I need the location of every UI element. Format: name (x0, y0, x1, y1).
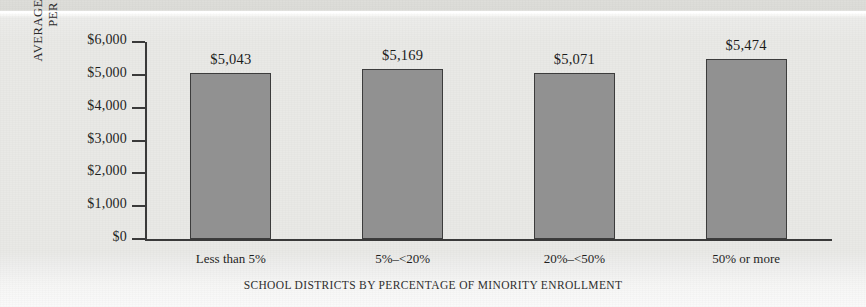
y-axis-tick-label: $5,000 (87, 65, 127, 81)
y-axis-tick-label: $4,000 (87, 98, 127, 114)
x-axis-category-label: 50% or more (666, 251, 826, 267)
top-edge-highlight-line (0, 11, 866, 13)
y-axis-tick-label: $2,000 (87, 163, 127, 179)
y-axis-tick-label: $6,000 (87, 32, 127, 48)
bar-value-label: $5,043 (171, 51, 291, 68)
y-axis-title-line-2: PER STUDENT (46, 0, 60, 27)
bar (362, 69, 443, 239)
bar (534, 73, 615, 239)
y-axis-tick: $2,000 (132, 172, 145, 174)
y-axis-title-line-1: AVERAGE EXPENDITURE (31, 0, 45, 61)
x-axis-line (145, 239, 832, 241)
y-axis-tick: $5,000 (132, 74, 145, 76)
bar (706, 59, 787, 239)
y-axis-line (145, 42, 147, 241)
y-axis-tick-label: $3,000 (87, 131, 127, 147)
x-axis-category-label: 20%–<50% (494, 251, 654, 267)
figure-root: AVERAGE EXPENDITURE PER STUDENT $0$1,000… (0, 0, 866, 307)
x-axis-category-label: 5%–<20% (323, 251, 483, 267)
y-axis-tick: $4,000 (132, 107, 145, 109)
x-axis-title: SCHOOL DISTRICTS BY PERCENTAGE OF MINORI… (0, 279, 866, 291)
bar-value-label: $5,071 (514, 51, 634, 68)
bar-value-label: $5,169 (343, 47, 463, 64)
y-axis-tick: $3,000 (132, 140, 145, 142)
y-axis-tick: $1,000 (132, 205, 145, 207)
y-axis-tick: $0 (132, 238, 145, 240)
y-axis-title: AVERAGE EXPENDITURE PER STUDENT (22, 0, 68, 82)
y-axis-tick: $6,000 (132, 41, 145, 43)
bar (190, 73, 271, 239)
x-axis-category-label: Less than 5% (151, 251, 311, 267)
plot-area: $0$1,000$2,000$3,000$4,000$5,000$6,000 $… (145, 42, 832, 240)
y-axis-tick-label: $1,000 (87, 196, 127, 212)
bar-value-label: $5,474 (686, 37, 806, 54)
y-axis-tick-label: $0 (113, 229, 127, 245)
